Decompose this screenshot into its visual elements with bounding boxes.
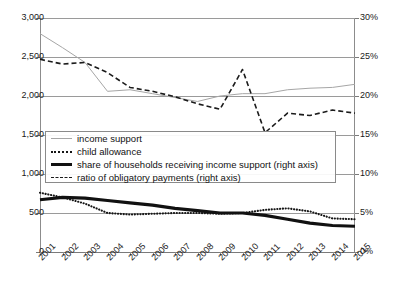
legend-item-share-households: share of households receiving income sup… — [46, 158, 335, 171]
legend-label-income-support: income support — [77, 133, 142, 144]
legend-label-share-households: share of households receiving income sup… — [77, 159, 318, 170]
series-line-ratio-of-obligatory — [40, 59, 355, 132]
legend-item-child-allowance: child allowance — [46, 145, 335, 158]
legend-swatch-share-households — [51, 163, 72, 166]
legend-swatch-ratio-obligatory — [51, 177, 72, 178]
chart-container: 05001,0001,5002,0002,5003,000 0%5%10%15%… — [0, 0, 407, 297]
legend-label-child-allowance: child allowance — [77, 146, 141, 157]
legend-label-ratio-obligatory: ratio of obligatory payments (right axis… — [77, 172, 241, 183]
series-line-income-support — [40, 34, 355, 102]
legend-swatch-child-allowance — [51, 151, 72, 153]
legend-item-income-support: income support — [46, 132, 335, 145]
series-line-child-allowance — [40, 193, 355, 220]
legend-item-ratio-obligatory: ratio of obligatory payments (right axis… — [46, 171, 335, 184]
legend-swatch-income-support — [51, 138, 72, 139]
chart-legend: income support child allowance share of … — [45, 131, 336, 183]
